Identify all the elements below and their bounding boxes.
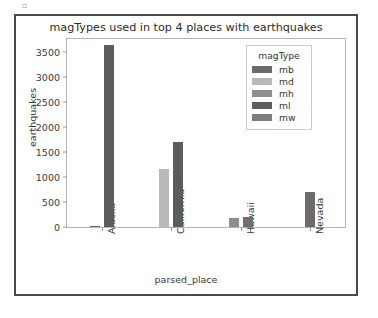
bar — [90, 226, 100, 227]
legend-label-mb: mb — [279, 64, 294, 75]
x-tick-mark — [241, 227, 242, 231]
bar — [104, 45, 114, 227]
legend-item-mb[interactable]: mb — [252, 64, 306, 75]
legend-item-md[interactable]: md — [252, 76, 306, 87]
legend-label-ml: ml — [279, 100, 291, 111]
x-axis-label: parsed_place — [16, 274, 356, 285]
legend-item-mh[interactable]: mh — [252, 88, 306, 99]
legend-swatch-mb — [252, 66, 272, 73]
legend-label-mh: mh — [279, 88, 294, 99]
legend-item-ml[interactable]: ml — [252, 100, 306, 111]
x-tick-mark — [310, 227, 311, 231]
legend-title: magType — [252, 50, 306, 61]
bar — [159, 169, 169, 227]
capture-artifact-glyph: ▫ — [22, 1, 32, 10]
bar — [229, 218, 239, 227]
bar — [305, 192, 315, 227]
chart-title: magTypes used in top 4 places with earth… — [16, 21, 356, 34]
legend-label-mw: mw — [279, 112, 295, 123]
bar — [173, 142, 183, 227]
bar — [243, 217, 253, 227]
legend-swatch-md — [252, 78, 272, 85]
x-tick-mark — [171, 227, 172, 231]
legend: magType mbmdmhmlmw — [246, 45, 312, 130]
legend-label-md: md — [279, 76, 294, 87]
legend-swatch-ml — [252, 102, 272, 109]
legend-swatch-mh — [252, 90, 272, 97]
figure-frame: magTypes used in top 4 places with earth… — [14, 14, 358, 296]
x-tick-mark — [102, 227, 103, 231]
legend-item-mw[interactable]: mw — [252, 112, 306, 123]
legend-swatch-mw — [252, 114, 272, 121]
legend-rows: mbmdmhmlmw — [252, 64, 306, 123]
